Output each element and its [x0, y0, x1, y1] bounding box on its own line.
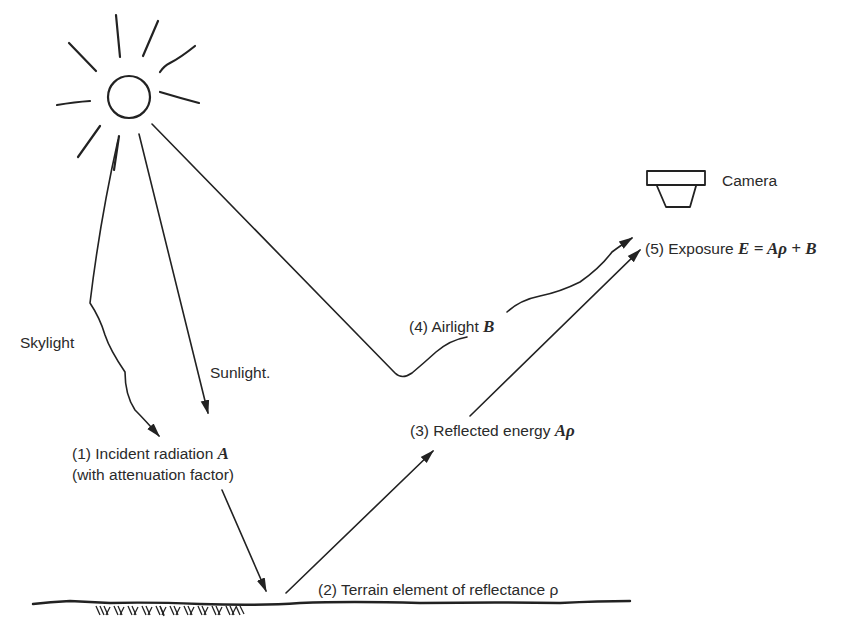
incident-radiation-label: (1) Incident radiation A [72, 444, 229, 464]
reflected-arrow-upper [470, 250, 640, 416]
airlight-label: (4) Airlight B [409, 317, 494, 337]
airlight-symbol: B [483, 317, 494, 336]
camera-icon [647, 171, 705, 207]
camera-label: Camera [722, 171, 777, 191]
sunlight-label: Sunlight. [210, 363, 270, 383]
attenuation-label: (with attenuation factor) [72, 465, 234, 485]
sunlight-arrow [139, 134, 208, 413]
reflected-arrow-lower [286, 451, 433, 593]
exposure-label: (5) Exposure E = Aρ + B [645, 239, 817, 259]
incident-symbol: A [218, 444, 229, 463]
terrain-hatching [96, 606, 236, 615]
exposure-formula: E = Aρ + B [738, 239, 817, 258]
airlight-arrow [507, 238, 632, 312]
incident-prefix: (1) Incident radiation [72, 445, 218, 462]
airlight-path [152, 124, 467, 377]
exposure-prefix: (5) Exposure [645, 240, 738, 257]
incident-to-terrain-arrow [222, 490, 266, 591]
reflected-prefix: (3) Reflected energy [410, 422, 555, 439]
reflected-energy-label: (3) Reflected energy Aρ [410, 421, 575, 441]
skylight-arrow [90, 140, 159, 436]
ground-line [33, 601, 630, 605]
airlight-prefix: (4) Airlight [409, 318, 483, 335]
reflected-symbol: Aρ [555, 421, 575, 440]
sun-icon [57, 15, 199, 170]
radiation-diagram [0, 0, 866, 632]
terrain-label: (2) Terrain element of reflectance ρ [318, 580, 558, 600]
skylight-label: Skylight [20, 333, 74, 353]
